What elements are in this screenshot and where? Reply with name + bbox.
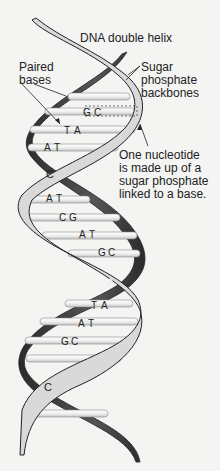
svg-text:A: A [79,229,86,240]
svg-text:G: G [61,336,69,347]
svg-text:G: G [69,212,77,223]
svg-text:A: A [74,125,81,136]
svg-text:C: C [44,381,52,393]
svg-text:T: T [56,193,62,204]
svg-text:T: T [89,229,95,240]
backbones-label: Sugar phosphate backbones [141,61,199,100]
svg-text:C: C [108,247,115,258]
svg-text:G: G [98,247,106,258]
svg-text:T: T [88,318,94,329]
svg-text:T: T [91,300,97,311]
svg-text:T: T [64,125,70,136]
svg-text:C: C [46,168,54,180]
svg-text:A: A [46,193,53,204]
svg-text:C: C [71,336,78,347]
diagram-title: DNA double helix [80,32,172,45]
nucleotide-label: One nucleotide is made up of a sugar pho… [119,149,208,201]
svg-text:T: T [54,142,60,153]
paired-bases-label: Paired bases [19,61,54,87]
svg-text:A: A [44,142,51,153]
svg-text:C: C [59,212,66,223]
svg-text:A: A [107,276,115,288]
svg-text:A: A [101,300,108,311]
svg-text:G: G [83,107,91,118]
svg-text:C: C [94,107,101,118]
svg-text:A: A [78,318,85,329]
